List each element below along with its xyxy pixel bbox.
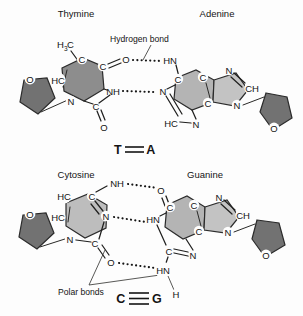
g-c2-n3-bond-a: [174, 249, 188, 252]
guanine-n1h-label: HN: [146, 214, 160, 225]
t-n3-c2-bond: [99, 95, 110, 103]
cytosine-c6h-label: HC: [51, 212, 65, 223]
t-c2-o2-bond-b: [101, 110, 105, 120]
c-c4-n4-bond: [96, 186, 107, 192]
adenine-c4-label: C: [205, 98, 212, 109]
adenine-sugar-oxygen-label: O: [270, 123, 277, 134]
ta-code-right: A: [146, 143, 155, 157]
thymine-n3h-label: NH: [106, 86, 120, 97]
thymine-methyl-h-label: H: [57, 39, 64, 50]
c-n1-c2-bond: [76, 240, 91, 242]
g-c6-n1-bond: [160, 213, 166, 216]
thymine-n1-label: N: [68, 96, 75, 107]
adenine-c2h-label: HC: [164, 118, 178, 129]
g-c2-n3-bond-b: [174, 253, 188, 256]
thymine-methyl-c-label: C: [67, 39, 74, 50]
t-c4-o4-bond-a: [108, 59, 120, 64]
guanine-n7-label: N: [216, 192, 223, 203]
polar-bonds-leader-line-b: [89, 275, 160, 285]
thymine-o4-label: O: [122, 54, 129, 65]
hbond-c-n4h-to-g-o6: [128, 184, 158, 188]
glycosidic-bond-guanine: [234, 224, 255, 232]
guanine-amine-h-label: H: [173, 289, 180, 300]
hydrogen-bond-callout-label: Hydrogen bond: [110, 34, 169, 44]
thymine-title: Thymine: [58, 8, 94, 19]
adenine-n7-label: N: [226, 65, 233, 76]
adenine-sugar: O: [243, 93, 292, 134]
cytosine-sugar-pentagon-shape: [19, 213, 54, 249]
t-c2-o2-bond-a: [97, 111, 101, 121]
guanine-c6-label: C: [167, 202, 174, 213]
cytosine-n3-label: N: [103, 211, 110, 222]
cytosine-c5h-label: HC: [57, 191, 71, 202]
polar-bonds-callout-label: Polar bonds: [58, 287, 104, 297]
cytosine-o2-label: O: [107, 257, 114, 268]
glycosidic-bond-adenine: [243, 97, 264, 105]
guanine-c5-label: C: [191, 200, 198, 211]
g-c6-o6-bond-b: [162, 198, 165, 206]
guanine-c4-label: C: [196, 226, 203, 237]
g-n3-c4-bond: [186, 239, 193, 250]
cg-code-right: G: [152, 292, 162, 306]
hbond-t-o4-to-a-n6h: [133, 60, 163, 61]
guanine-n3-label: N: [190, 250, 197, 261]
hydrogen-bond-callout: Hydrogen bond: [110, 34, 169, 60]
adenine-n9-label: N: [234, 100, 241, 111]
cytosine-title: Cytosine: [58, 169, 95, 180]
t-c4-o4-bond-b: [109, 63, 121, 68]
thymine-c4-label: C: [100, 61, 107, 72]
adenine-n6h-label: HN: [163, 55, 177, 66]
a-c2-n3-bond: [180, 122, 191, 123]
guanine-n9-label: N: [225, 227, 232, 238]
a-c6-n1-bond: [167, 85, 175, 89]
adenine-n1-label: N: [160, 86, 167, 97]
polar-bonds-leader-line-a: [89, 250, 105, 285]
adenine-title: Adenine: [200, 8, 235, 19]
adenine-c8h-label: CH: [245, 83, 259, 94]
thymine-methyl-group: H 3 C: [57, 39, 79, 62]
base-pairing-figure: Thymine Adenine O H 3 C C C: [0, 0, 303, 316]
adenine-n3-label: N: [193, 119, 200, 130]
ta-code-left: T: [114, 143, 122, 157]
thymine-sugar-oxygen-label: O: [26, 74, 33, 85]
thymine-c6h-label: HC: [51, 75, 65, 86]
hbond-c-n3-to-g-n1h: [114, 217, 146, 222]
thymine-c2-label: C: [93, 101, 100, 112]
guanine-c8h-label: CH: [236, 210, 250, 221]
guanine-c2-label: C: [166, 246, 173, 257]
adenine-c5-label: C: [200, 72, 207, 83]
cytosine-c2-label: C: [92, 238, 99, 249]
guanine-sugar-oxygen-label: O: [262, 250, 269, 261]
ta-pair-code: T A: [114, 143, 156, 157]
thymine-c5-label: C: [79, 54, 86, 65]
cytosine-c4-label: C: [89, 191, 96, 202]
guanine-sugar: O: [234, 220, 285, 261]
guanine-n2h-label: HN: [156, 265, 170, 276]
g-n1-c2-bond: [157, 225, 166, 245]
guanine-title: Guanine: [187, 169, 223, 180]
adenine-c6-label: C: [175, 74, 182, 85]
cytosine-sugar-oxygen-label: O: [26, 209, 33, 220]
cg-code-left: C: [116, 292, 125, 306]
thymine-adenine-pair: Thymine Adenine O H 3 C C C: [20, 8, 292, 157]
hbond-t-n3h-to-a-n1: [123, 91, 154, 92]
cg-pair-code: C G: [116, 292, 162, 306]
adenine-imidazole-ring-shape: [213, 73, 248, 106]
hydrogen-bond-leader-line: [143, 45, 151, 60]
thymine-o2-label: O: [100, 122, 107, 133]
cytosine-n4h-label: NH: [110, 178, 124, 189]
guanine-o6-label: O: [157, 185, 164, 196]
cytosine-n1-label: N: [67, 234, 74, 245]
cytosine-guanine-pair: Cytosine Guanine O HC HC C NH N N: [19, 169, 285, 306]
dna-base-pair-diagram: Thymine Adenine O H 3 C C C: [0, 0, 303, 316]
hbond-c-o2-to-g-n2h: [119, 263, 155, 268]
